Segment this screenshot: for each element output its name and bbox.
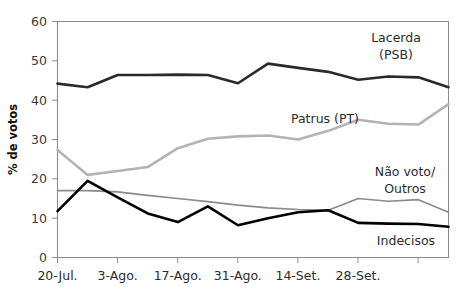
x-tick-label-2: 3-Ago.	[98, 268, 138, 283]
patrus-label: Patrus (PT)	[291, 111, 359, 126]
series-group	[58, 64, 449, 227]
x-tick-label-1: 20-Jul.	[37, 268, 77, 283]
y-tick-label-0: 0	[39, 250, 47, 265]
y-tick-label-10: 10	[31, 211, 47, 226]
x-tick-label-4: 31-Ago.	[214, 268, 262, 283]
lacerda-label-line2: (PSB)	[379, 47, 413, 62]
y-tick-marks	[52, 22, 58, 258]
y-tick-label-60: 60	[31, 14, 47, 29]
y-tick-label-20: 20	[31, 171, 47, 186]
series-line-lacerda	[58, 64, 449, 88]
naovoto-label-line1: Não voto/	[375, 164, 436, 179]
y-tick-label-50: 50	[31, 53, 47, 68]
lacerda-label-line1: Lacerda	[371, 30, 421, 45]
indecisos-label: Indecisos	[377, 233, 435, 248]
y-axis-title: % de votos	[6, 104, 20, 175]
y-tick-label-30: 30	[31, 132, 47, 147]
naovoto-label-line2: Outros	[384, 181, 426, 196]
chart-container: 0 10 20 30 40 50 60 % de votos 20-Jul. 3…	[0, 0, 472, 299]
x-tick-label-5: 14-Set.	[275, 268, 320, 283]
x-tick-label-6: 28-Set.	[336, 268, 381, 283]
line-chart: 0 10 20 30 40 50 60 % de votos 20-Jul. 3…	[0, 0, 472, 299]
y-tick-label-40: 40	[31, 93, 47, 108]
x-tick-marks	[58, 258, 419, 264]
x-tick-label-3: 17-Ago.	[154, 268, 202, 283]
